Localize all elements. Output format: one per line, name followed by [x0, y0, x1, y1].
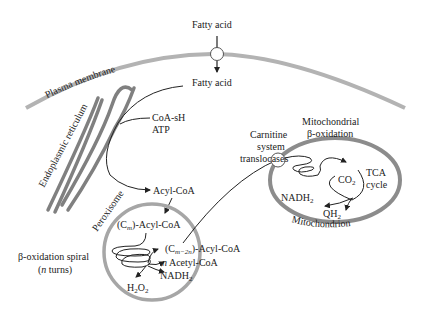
fatty-acid-transporter	[211, 48, 224, 61]
carnitine-label-2: system	[257, 141, 285, 152]
tca-label-1: TCA	[366, 167, 387, 178]
peroxisome-beta-spiral	[112, 233, 164, 277]
acyl-coa-label: Acyl-CoA	[153, 185, 195, 196]
beta-spiral-label-line1: β-oxidation spiral	[18, 251, 89, 262]
coa-sh-label: CoA-sH	[152, 112, 185, 123]
co2-label: CO2	[338, 174, 356, 187]
carnitine-label-1: Carnitine	[250, 129, 288, 140]
nadh2-mito-label: NADH2	[281, 192, 314, 205]
acetyl-coa-label: n Acetyl-CoA	[162, 257, 219, 268]
mito-beta-label-2: β-oxidation	[307, 128, 353, 139]
beta-spiral-label-line2: (n turns)	[38, 264, 72, 276]
nadh2-peroxisome-label: NADH2	[160, 270, 193, 283]
cm-acyl-coa-label: (Cm)-Acyl-CoA	[117, 219, 181, 232]
atp-label: ATP	[152, 124, 170, 135]
cm2n-acyl-coa-label: (Cm−2n)-Acyl-CoA	[165, 243, 241, 256]
fatty-acid-outside-label: Fatty acid	[192, 19, 232, 30]
fatty-acid-inside-label: Fatty acid	[192, 77, 232, 88]
mito-beta-label-1: Mitochondrial	[302, 116, 359, 127]
plasma-membrane-label: Plasma membrane	[43, 63, 117, 100]
carnitine-label-3: translocases	[240, 153, 288, 164]
fatty-acid-oxidation-diagram: Plasma membrane Fatty acid Fatty acid En…	[0, 0, 425, 323]
mitochondrion-label: Mitochondrion	[291, 213, 351, 229]
tca-label-2: cycle	[366, 179, 388, 190]
